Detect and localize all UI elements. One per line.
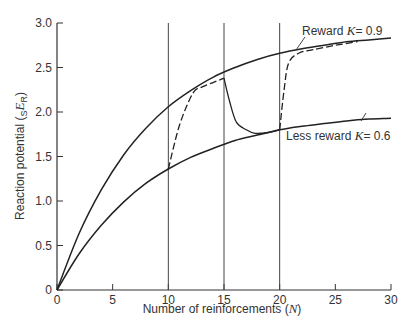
x-tick-label: 0 bbox=[54, 293, 61, 307]
y-tick-label: 3.0 bbox=[35, 16, 52, 30]
vertical-reference-lines bbox=[168, 23, 279, 290]
y-tick-label: 1.0 bbox=[35, 194, 52, 208]
y-axis: 00.51.01.52.02.53.0 bbox=[35, 16, 63, 297]
reward-annotation: Reward K= 0.9 bbox=[302, 23, 383, 38]
x-tick-label: 30 bbox=[384, 293, 398, 307]
series-shift-to-less-reward-n-15 bbox=[224, 78, 280, 133]
reaction-potential-chart: 00.51.01.52.02.53.0 051015202530 Reward … bbox=[0, 0, 411, 330]
less-reward-annotation: Less reward K= 0.6 bbox=[286, 128, 391, 143]
x-tick-label: 5 bbox=[109, 293, 116, 307]
y-tick-label: 0.5 bbox=[35, 239, 52, 253]
x-tick-label: 25 bbox=[329, 293, 343, 307]
y-axis-title: Reaction potential (SER) bbox=[12, 92, 29, 220]
y-tick-label: 2.0 bbox=[35, 105, 52, 119]
series-shift-back-to-reward-n-20 bbox=[280, 42, 358, 130]
x-axis-title: Number of reinforcements (N) bbox=[143, 301, 302, 316]
y-tick-label: 2.5 bbox=[35, 61, 52, 75]
y-tick-label: 0 bbox=[45, 283, 52, 297]
y-tick-label: 1.5 bbox=[35, 150, 52, 164]
